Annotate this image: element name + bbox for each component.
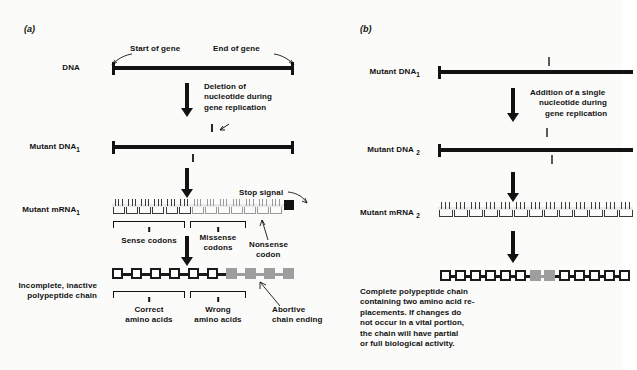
amino-acid-correct xyxy=(455,270,466,281)
mrna-nucleotide xyxy=(445,202,446,209)
leader-deleted-nucleotide xyxy=(215,122,231,134)
mrna-nucleotide xyxy=(272,199,273,206)
arrow-transcription-b xyxy=(506,172,520,202)
mrna-nucleotide xyxy=(460,202,461,209)
mrna-nucleotide xyxy=(494,202,495,209)
mrna-nucleotide xyxy=(561,202,562,209)
mrna-nucleotide xyxy=(576,202,577,209)
mrna-nucleotide xyxy=(591,202,592,209)
process-b-line-2: nucleotide during xyxy=(530,98,637,108)
mrna-codon xyxy=(589,210,603,217)
mrna-nucleotide xyxy=(194,199,195,206)
amino-acid-correct xyxy=(169,268,180,279)
label-mutant-dna-2-text: Mutant DNA xyxy=(367,145,414,154)
amino-acid-correct xyxy=(150,268,161,279)
amino-acid-correct xyxy=(188,268,199,279)
mrna-nucleotide xyxy=(161,199,162,206)
mrna-nucleotide xyxy=(135,199,136,206)
mrna-nucleotide xyxy=(599,202,600,209)
mrna-nucleotide xyxy=(565,202,566,209)
label-mutant-mrna-2: Mutant mRNA 2 xyxy=(340,208,420,221)
mrna-nucleotide xyxy=(128,199,129,206)
caption-line-1: Complete polypeptide chain xyxy=(360,287,540,297)
mrna-nucleotide xyxy=(207,199,208,206)
label-mutant-mrna-2-sub: 2 xyxy=(416,212,420,219)
label-nonsense-codon-line1: Nonsense xyxy=(249,240,288,250)
process-text-deletion: Deletion of nucleotide during gene repli… xyxy=(204,82,316,113)
mrna-codon xyxy=(469,210,483,217)
polypeptide-chain-b xyxy=(440,270,630,284)
leader-nonsense-codon xyxy=(252,214,274,242)
caption-complete-chain: Complete polypeptide chain containing tw… xyxy=(360,287,540,349)
process-line-1: Deletion of xyxy=(204,82,316,92)
caption-line-3: placements. If changes do xyxy=(360,308,540,318)
label-mutant-dna-1: Mutant DNA1 xyxy=(0,142,80,155)
mrna-nucleotide xyxy=(475,202,476,209)
process-text-addition: Addition of a single nucleotide during g… xyxy=(530,88,637,119)
mrna-codon xyxy=(619,210,633,217)
mrna-nucleotide xyxy=(441,202,442,209)
amino-acid-wrong xyxy=(530,270,541,281)
arrow-addition xyxy=(506,88,520,122)
mrna-nucleotide xyxy=(539,202,540,209)
mrna-nucleotide xyxy=(610,202,611,209)
panel-a-tag: (a) xyxy=(24,24,35,34)
mrna-nucleotide xyxy=(550,202,551,209)
mrna-strand-mutant-2 xyxy=(438,202,633,220)
amino-acid-correct xyxy=(589,270,600,281)
mrna-nucleotide xyxy=(141,199,142,206)
label-abortive-line2: chain ending xyxy=(272,315,323,325)
leader-start-of-gene xyxy=(108,50,138,70)
dna-end-cap-left xyxy=(112,141,115,154)
mrna-codon xyxy=(244,207,256,214)
mrna-nucleotide xyxy=(132,199,133,206)
amino-acid-correct xyxy=(485,270,496,281)
label-missense-codons-line1: Missense xyxy=(190,233,246,243)
mrna-codon xyxy=(544,210,558,217)
bracket-sense-codons xyxy=(113,221,185,228)
amino-acid-correct xyxy=(500,270,511,281)
label-dna: DNA xyxy=(10,63,80,73)
arrow-translation-b xyxy=(506,231,520,263)
mrna-nucleotide xyxy=(167,199,168,206)
label-wrong-line1: Wrong xyxy=(190,305,246,315)
label-sense-codons: Sense codons xyxy=(113,236,185,246)
panel-b-tag: (b) xyxy=(360,24,372,34)
mrna-nucleotide xyxy=(501,202,502,209)
mrna-nucleotide xyxy=(122,199,123,206)
label-mutant-dna-1-sub: 1 xyxy=(76,146,80,153)
mrna-nucleotide xyxy=(180,199,181,206)
mrna-nucleotide xyxy=(174,199,175,206)
label-mutant-mrna-1: Mutant mRNA1 xyxy=(0,205,80,218)
mrna-nucleotide xyxy=(275,199,276,206)
mrna-nucleotide xyxy=(213,199,214,206)
mrna-nucleotide xyxy=(148,199,149,206)
mrna-nucleotide xyxy=(145,199,146,206)
mrna-codon xyxy=(139,207,151,214)
label-incomplete-chain-line1: Incomplete, inactive xyxy=(0,281,97,291)
mrna-codon xyxy=(529,210,543,217)
mrna-codon xyxy=(514,210,528,217)
mrna-codon xyxy=(113,207,125,214)
mrna-codon xyxy=(574,210,588,217)
callout-end-of-gene: End of gene xyxy=(213,44,260,54)
leader-abortive-chain-ending xyxy=(252,276,286,308)
mrna-codon xyxy=(166,207,178,214)
label-mutant-mrna-1-text: Mutant mRNA xyxy=(22,205,76,214)
mrna-codon xyxy=(604,210,618,217)
bracket-missense-codons xyxy=(190,221,246,228)
mrna-codon xyxy=(126,207,138,214)
label-nonsense-codon-line2: codon xyxy=(256,250,281,260)
dna-bar-wildtype xyxy=(112,66,294,70)
mrna-nucleotide xyxy=(266,199,267,206)
mrna-nucleotide xyxy=(580,202,581,209)
mrna-nucleotide xyxy=(118,199,119,206)
label-correct-line2: amino acids xyxy=(113,315,185,325)
arrow-transcription-a xyxy=(180,168,194,198)
existing-mutation-tick-b1 xyxy=(548,57,550,66)
leader-end-of-gene xyxy=(272,50,300,70)
mrna-nucleotide xyxy=(531,202,532,209)
amino-acid-correct xyxy=(604,270,615,281)
caption-line-2: containing two amino acid re- xyxy=(360,297,540,307)
mrna-codon xyxy=(231,207,243,214)
